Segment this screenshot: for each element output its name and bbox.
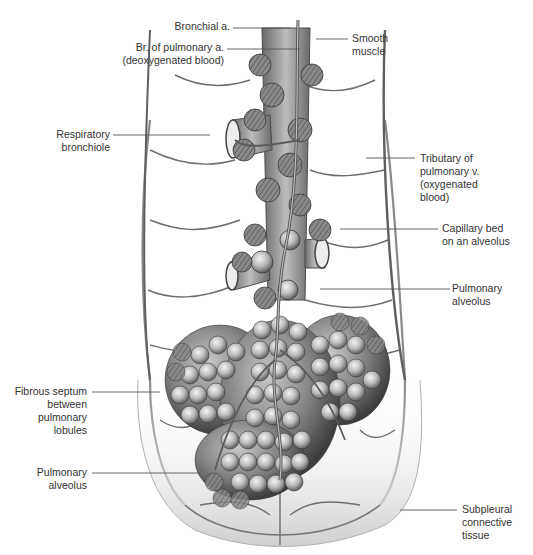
label-pulmonary-alveolus-upper: Pulmonary alveolus <box>452 282 502 308</box>
label-pulmonary-alveolus-lower: Pulmonary alveolus <box>37 466 87 492</box>
label-pulmonary-artery-branch: Br. of pulmonary a. (deoxygenated blood) <box>122 41 224 67</box>
label-bronchial-artery: Bronchial a. <box>175 20 230 33</box>
label-subpleural-connective-tissue: Subpleural connective tissue <box>462 503 512 542</box>
label-capillary-bed: Capillary bed on an alveolus <box>442 222 510 248</box>
anatomy-figure: Bronchial a. Br. of pulmonary a. (deoxyg… <box>0 0 533 555</box>
label-fibrous-septum: Fibrous septum between pulmonary lobules <box>15 385 87 437</box>
label-pulmonary-vein-tributary: Tributary of pulmonary v. (oxygenated bl… <box>420 152 479 204</box>
label-smooth-muscle: Smooth muscle <box>352 32 388 58</box>
label-respiratory-bronchiole: Respiratory bronchiole <box>56 128 110 154</box>
